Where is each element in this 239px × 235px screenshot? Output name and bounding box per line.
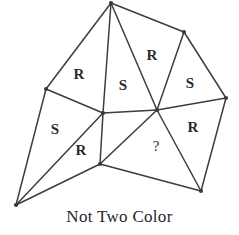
graph-vertex-center-right	[155, 108, 159, 112]
graph-vertex-left	[44, 87, 48, 91]
graph-edge	[157, 32, 184, 110]
graph-edge	[100, 110, 157, 164]
graph-vertex-center-left	[101, 111, 105, 115]
graph-vertex-right	[224, 96, 228, 100]
region-upper-right-label: R	[147, 48, 158, 63]
graph-edge	[16, 113, 103, 205]
planar-graph-diagram	[0, 0, 239, 215]
graph-vertex-bottom-mid	[98, 162, 102, 166]
region-upper-left-label: R	[74, 67, 85, 82]
graph-edge	[100, 113, 103, 164]
graph-edge-layer	[16, 3, 226, 205]
graph-edge	[201, 98, 226, 191]
graph-vertex-top-right	[182, 30, 186, 34]
graph-edge	[16, 164, 100, 205]
graph-vertex-layer	[14, 1, 228, 207]
graph-edge	[103, 110, 157, 113]
graph-edge	[157, 98, 226, 110]
graph-vertex-apex	[109, 1, 113, 5]
region-right-upper-label: S	[186, 76, 194, 91]
region-unknown-label: ?	[153, 139, 160, 154]
figure-caption: Not Two Color	[0, 207, 239, 227]
region-right-lower-label: R	[188, 120, 199, 135]
graph-edge	[100, 164, 201, 191]
region-center-lower-label: R	[76, 143, 87, 158]
figure-not-two-color: RSRSRSR? Not Two Color	[0, 0, 239, 235]
graph-edge	[103, 3, 111, 113]
region-center-upper-label: S	[119, 78, 127, 93]
graph-edge	[46, 89, 103, 113]
region-left-lower-label: S	[51, 122, 59, 137]
graph-vertex-bottom-right	[199, 189, 203, 193]
graph-edge	[16, 89, 46, 205]
